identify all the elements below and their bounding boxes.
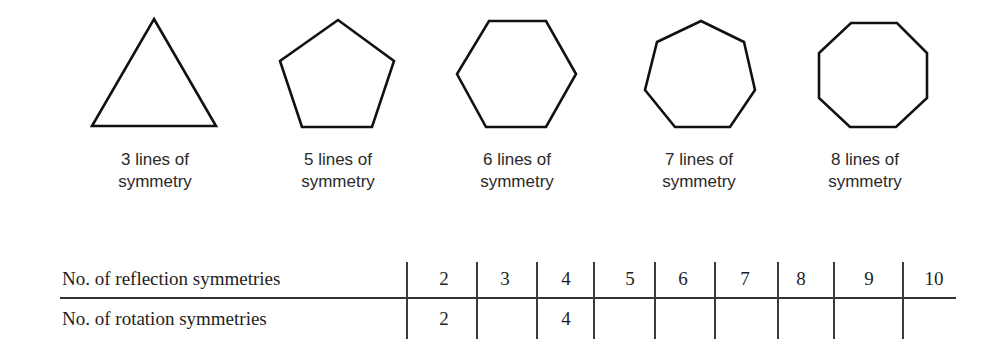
column-divider	[536, 262, 538, 339]
triangle-caption: 3 lines of symmetry	[75, 149, 235, 193]
column-divider	[902, 262, 904, 339]
table-cell: 9	[849, 268, 889, 290]
pentagon-caption: 5 lines of symmetry	[258, 149, 418, 193]
column-divider	[406, 262, 408, 339]
triangle-shape	[92, 19, 216, 126]
column-divider	[833, 262, 835, 339]
caption-line: 5 lines of	[258, 149, 418, 171]
hexagon-caption: 6 lines of symmetry	[437, 149, 597, 193]
rotation-row-label: No. of rotation symmetries	[62, 308, 267, 330]
column-divider	[777, 262, 779, 339]
table-cell: 7	[725, 268, 765, 290]
table-cell: 4	[546, 308, 586, 330]
table-cell: 8	[781, 268, 821, 290]
column-divider	[714, 262, 716, 339]
caption-line: 8 lines of	[785, 149, 945, 171]
heptagon-shape	[645, 21, 755, 127]
octagon-caption: 8 lines of symmetry	[785, 149, 945, 193]
caption-line: symmetry	[258, 171, 418, 193]
caption-line: 3 lines of	[75, 149, 235, 171]
table-cell: 3	[485, 268, 525, 290]
column-divider	[654, 262, 656, 339]
column-divider	[593, 262, 595, 339]
table-cell: 2	[424, 268, 464, 290]
caption-line: 7 lines of	[619, 149, 779, 171]
octagon-shape	[819, 23, 927, 127]
table-cell: 4	[546, 268, 586, 290]
hexagon-shape	[457, 21, 576, 127]
caption-line: symmetry	[785, 171, 945, 193]
caption-line: 6 lines of	[437, 149, 597, 171]
column-divider	[476, 262, 478, 339]
table-cell: 5	[610, 268, 650, 290]
table-cell: 6	[663, 268, 703, 290]
table-cell: 2	[424, 308, 464, 330]
pentagon-shape	[280, 20, 394, 127]
caption-line: symmetry	[75, 171, 235, 193]
caption-line: symmetry	[437, 171, 597, 193]
reflection-row-label: No. of reflection symmetries	[62, 268, 280, 290]
heptagon-caption: 7 lines of symmetry	[619, 149, 779, 193]
table-cell: 10	[914, 268, 954, 290]
table-row-divider	[60, 297, 956, 299]
shapes-diagram	[0, 0, 994, 140]
caption-line: symmetry	[619, 171, 779, 193]
